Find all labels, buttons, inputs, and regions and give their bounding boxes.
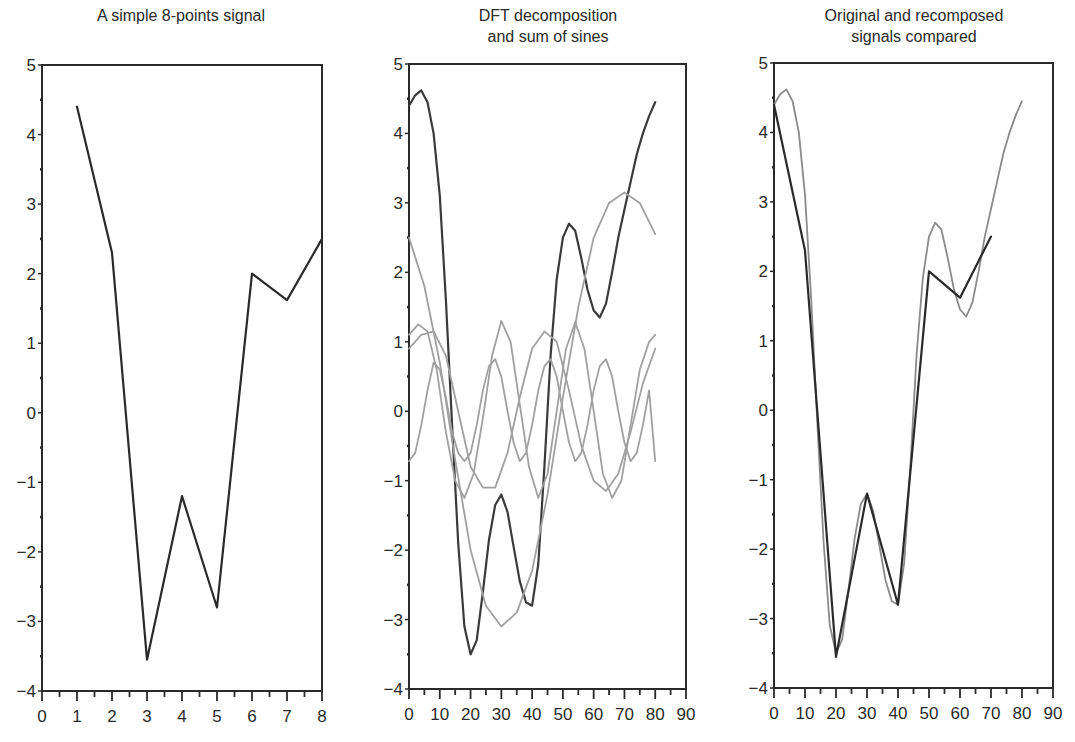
y-tick-label: 5 <box>759 54 768 73</box>
x-tick-label: 60 <box>951 704 970 723</box>
y-tick-label: 1 <box>759 332 768 351</box>
y-tick-label: 4 <box>759 123 768 142</box>
x-tick-label: 40 <box>889 704 908 723</box>
y-tick-label: 2 <box>759 262 768 281</box>
x-tick-label: 70 <box>982 704 1001 723</box>
x-tick-label: 50 <box>920 704 939 723</box>
y-tick-label: 0 <box>759 401 768 420</box>
y-tick-label: −3 <box>749 610 768 629</box>
chart-compared: −4−3−2−10123450102030405060708090 <box>0 0 1075 742</box>
x-tick-label: 30 <box>858 704 877 723</box>
x-tick-label: 0 <box>769 704 778 723</box>
x-tick-label: 90 <box>1044 704 1063 723</box>
y-tick-label: −1 <box>749 471 768 490</box>
x-tick-label: 20 <box>827 704 846 723</box>
y-tick-label: 3 <box>759 193 768 212</box>
series-line-original <box>774 105 991 657</box>
x-tick-label: 80 <box>1013 704 1032 723</box>
series-line-recomposed <box>774 89 1022 653</box>
y-tick-label: −2 <box>749 540 768 559</box>
x-tick-label: 10 <box>796 704 815 723</box>
y-tick-label: −4 <box>749 679 768 698</box>
